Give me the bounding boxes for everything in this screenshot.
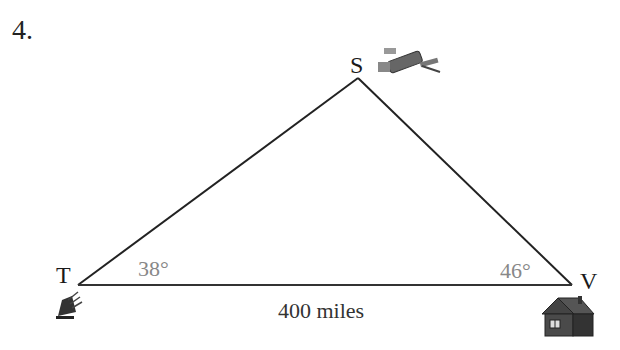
vertex-label-v: V <box>580 268 597 295</box>
side-sv <box>358 78 572 285</box>
house-icon <box>542 296 594 336</box>
angle-v: 46° <box>500 258 531 284</box>
vertex-label-t: T <box>56 262 71 289</box>
satellite-dish-icon <box>56 292 82 319</box>
side-ts <box>78 78 358 285</box>
satellite-icon <box>378 48 440 73</box>
triangle <box>78 78 572 285</box>
vertex-label-s: S <box>350 52 363 79</box>
base-length-label: 400 miles <box>278 298 364 324</box>
angle-t: 38° <box>138 256 169 282</box>
